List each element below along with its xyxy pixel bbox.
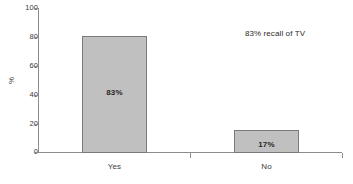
x-tick-category-divider: [190, 153, 191, 158]
y-tick-mark-100: [34, 8, 38, 9]
bar-no[interactable]: 17%: [234, 130, 299, 153]
chart-annotation: 83% recall of TV: [208, 29, 342, 38]
y-axis-title: %: [7, 73, 16, 89]
y-tick-20: 20: [0, 124, 38, 125]
category-label-yes: Yes: [82, 162, 147, 171]
x-tick-axis-end: [342, 153, 343, 158]
y-tick-mark-80: [34, 37, 38, 38]
bar-chart: 100 80 60 40 20 0 % 83% 17% Yes No 83% r…: [0, 0, 353, 184]
bar-value-yes: 83%: [83, 88, 146, 97]
y-tick-mark-40: [34, 95, 38, 96]
y-tick-40: 40: [0, 95, 38, 96]
category-label-no: No: [234, 162, 299, 171]
bar-value-no: 17%: [235, 140, 298, 149]
y-tick-100: 100: [0, 8, 38, 9]
y-axis-line: [38, 8, 39, 153]
y-tick-60: 60: [0, 66, 38, 67]
y-tick-80: 80: [0, 37, 38, 38]
y-tick-mark-60: [34, 66, 38, 67]
y-tick-mark-20: [34, 124, 38, 125]
bar-yes[interactable]: 83%: [82, 36, 147, 153]
y-tick-0: 0: [0, 152, 38, 153]
